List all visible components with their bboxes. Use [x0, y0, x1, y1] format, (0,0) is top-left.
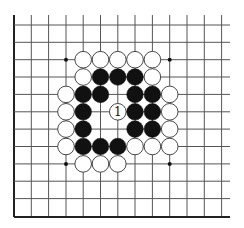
- white-stone: [58, 121, 75, 138]
- black-stone: [92, 69, 109, 86]
- star-point-icon: [64, 162, 68, 166]
- black-stone: [110, 69, 127, 86]
- black-stone: [75, 86, 92, 103]
- white-stone: [127, 51, 144, 68]
- white-stone: [75, 156, 92, 173]
- black-stone: [127, 121, 144, 138]
- white-stone: [92, 51, 109, 68]
- white-stone: [58, 86, 75, 103]
- white-stone: [75, 51, 92, 68]
- white-stone: [110, 156, 127, 173]
- black-stone: [127, 104, 144, 121]
- white-stone: [144, 138, 161, 155]
- white-stone: [92, 156, 109, 173]
- black-stone: [127, 86, 144, 103]
- white-stone: [127, 138, 144, 155]
- white-stone: [161, 86, 178, 103]
- white-stone: [144, 69, 161, 86]
- go-board: 1: [0, 0, 244, 228]
- black-stone: [127, 69, 144, 86]
- white-stone: [75, 69, 92, 86]
- black-stone: [75, 121, 92, 138]
- black-stone: [144, 121, 161, 138]
- white-stone: [161, 138, 178, 155]
- white-stone: [161, 121, 178, 138]
- white-stone: [58, 104, 75, 121]
- black-stone: [75, 138, 92, 155]
- white-stone: [161, 104, 178, 121]
- black-stone: [75, 104, 92, 121]
- black-stone: [144, 104, 161, 121]
- stones: 1: [58, 51, 178, 172]
- white-stone: [110, 51, 127, 68]
- star-point-icon: [64, 58, 68, 62]
- star-point-icon: [168, 58, 172, 62]
- black-stone: [92, 138, 109, 155]
- black-stone: [110, 138, 127, 155]
- white-stone: [58, 138, 75, 155]
- black-stone: [144, 86, 161, 103]
- white-stone: [144, 51, 161, 68]
- star-point-icon: [168, 162, 172, 166]
- black-stone: [92, 86, 109, 103]
- move-number-label: 1: [114, 105, 122, 119]
